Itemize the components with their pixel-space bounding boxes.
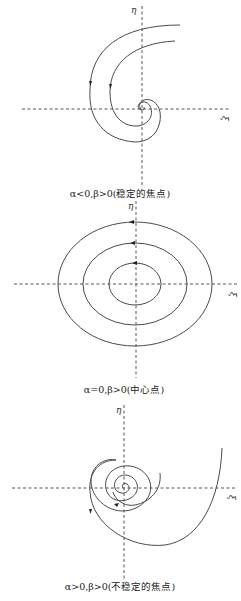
arrow-icon (89, 509, 92, 514)
arrow-icon (129, 220, 134, 224)
arrow-icon (130, 241, 135, 245)
xi-label: ξ (220, 116, 230, 122)
panel-unstable-focus: η ξ α>0,β>0(不稳定的焦点) (12, 405, 237, 592)
caption: α=0,β>0(中心点) (84, 384, 164, 395)
trajectory-inner (110, 41, 175, 126)
arrow-icon (114, 503, 119, 507)
xi-label: ξ (227, 495, 237, 501)
panel-stable-focus: η ξ α<0,β>0(稳定的焦点) (22, 5, 230, 199)
trajectory-outer (90, 25, 180, 142)
phase-portraits-figure: η ξ α<0,β>0(稳定的焦点) η ξ α=0,β>0(中心点) η ξ (0, 0, 241, 601)
caption: α>0,β>0(不稳定的焦点) (65, 581, 175, 592)
panel-center: η ξ α=0,β>0(中心点) (14, 201, 238, 395)
eta-label: η (131, 5, 137, 15)
arrow-icon (89, 81, 92, 86)
arrow-icon (132, 261, 137, 265)
arrow-icon (109, 84, 112, 89)
eta-label: η (116, 405, 122, 415)
caption: α<0,β>0(稳定的焦点) (70, 188, 170, 199)
xi-label: ξ (228, 292, 238, 298)
eta-label: η (128, 201, 134, 211)
